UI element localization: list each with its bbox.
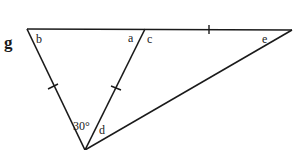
angle-label-c: c [147,33,152,45]
geometry-figure: g b a c e 30° d [0,0,297,150]
angle-label-a: a [128,32,133,44]
part-label: g [4,34,13,51]
angle-label-d: d [99,124,105,136]
top-side [27,29,292,30]
right-side [85,30,292,150]
angle-label-e: e [262,33,267,45]
angle-label-30-degrees: 30° [73,120,90,132]
angle-label-b: b [36,33,42,45]
triangle-diagram [0,0,297,150]
